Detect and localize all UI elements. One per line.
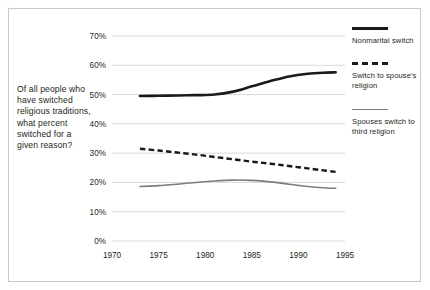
- x-axis-tick-label: 1995: [336, 251, 355, 260]
- series-line: [140, 180, 336, 188]
- legend-label-nonmarital-switch: Nonmarital switch: [352, 36, 422, 46]
- y-axis-tick-label: 40%: [90, 120, 106, 129]
- legend-swatch-spouses-switch-to-third-religion: [352, 105, 388, 114]
- legend-label-spouses-switch-to-third-religion: Spouses switch to third religion: [352, 117, 422, 137]
- y-axis-tick-label: 20%: [90, 178, 106, 187]
- figure-root: · · Of all people who have switched reli…: [0, 0, 430, 290]
- y-axis-tick-label: 50%: [90, 91, 106, 100]
- series-line: [140, 149, 336, 172]
- y-axis-tick-label: 60%: [90, 61, 106, 70]
- x-axis-tick-label: 1990: [289, 251, 308, 260]
- x-axis-tick-label: 1985: [243, 251, 262, 260]
- legend-entry-nonmarital-switch[interactable]: Nonmarital switch: [352, 24, 422, 46]
- chart-legend: Nonmarital switch Switch to spouse's rel…: [352, 24, 422, 150]
- y-axis-tick-label: 0%: [94, 237, 106, 246]
- legend-swatch-switch-to-spouses-religion: [352, 59, 388, 68]
- x-axis-tick-label: 1980: [196, 251, 215, 260]
- legend-swatch-nonmarital-switch: [352, 24, 388, 33]
- legend-entry-switch-to-spouses-religion[interactable]: Switch to spouse's religion: [352, 59, 422, 91]
- series-line: [140, 72, 336, 96]
- x-axis-tick-label: 1970: [103, 251, 122, 260]
- y-axis-tick-label: 10%: [90, 208, 106, 217]
- x-axis-tick-label: 1975: [149, 251, 168, 260]
- y-axis-tick-label: 70%: [90, 32, 106, 41]
- legend-label-switch-to-spouses-religion: Switch to spouse's religion: [352, 71, 422, 91]
- y-axis-tick-label: 30%: [90, 149, 106, 158]
- legend-entry-spouses-switch-to-third-religion[interactable]: Spouses switch to third religion: [352, 105, 422, 137]
